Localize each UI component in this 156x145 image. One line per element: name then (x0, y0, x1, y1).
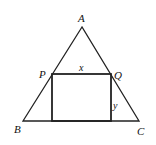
label-c: C (137, 125, 145, 137)
triangle-rectangle-diagram: A P Q x y B C (0, 0, 156, 145)
label-p: P (38, 68, 46, 80)
label-x: x (78, 62, 84, 73)
label-b: B (14, 123, 21, 135)
label-a: A (77, 12, 85, 24)
label-y: y (112, 100, 118, 111)
label-q: Q (114, 69, 122, 81)
inscribed-rectangle (52, 74, 111, 121)
